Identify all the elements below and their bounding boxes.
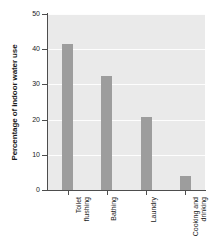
- x-axis-tick-label-line: Toilet: [75, 197, 83, 249]
- x-axis-tick: [68, 191, 69, 195]
- x-axis-tick-label-line: drinking: [200, 197, 208, 249]
- y-axis-tick: [42, 84, 47, 85]
- x-axis-tick: [146, 191, 147, 195]
- y-axis-tick-label: 0: [26, 186, 40, 193]
- bar[interactable]: [101, 76, 112, 190]
- x-axis-tick: [107, 191, 108, 195]
- plot-area: [48, 14, 205, 190]
- gridline: [48, 14, 205, 15]
- bar-chart-figure: Percentage of indoor water use 010203040…: [0, 0, 215, 250]
- y-axis-tick: [42, 14, 47, 15]
- y-axis-title: Percentage of indoor water use: [10, 44, 19, 160]
- y-axis-tick-label: 50: [26, 10, 40, 17]
- bar[interactable]: [62, 44, 73, 190]
- x-axis-tick-label-line: flushing: [82, 197, 90, 249]
- y-axis-tick-label: 10: [26, 151, 40, 158]
- y-axis-tick: [42, 190, 47, 191]
- y-axis-tick: [42, 155, 47, 156]
- y-axis-title-container: Percentage of indoor water use: [6, 14, 22, 190]
- y-axis-tick-label: 20: [26, 116, 40, 123]
- y-axis-tick-label: 30: [26, 80, 40, 87]
- x-axis-tick-label: Cooking anddrinking: [192, 197, 215, 249]
- y-axis-tick: [42, 120, 47, 121]
- bar[interactable]: [141, 117, 152, 190]
- x-axis-tick-label-line: Laundry: [150, 197, 158, 249]
- y-axis-tick-label: 40: [26, 45, 40, 52]
- y-axis-tick: [42, 49, 47, 50]
- x-axis-tick: [185, 191, 186, 195]
- bar[interactable]: [180, 176, 191, 190]
- x-axis-line: [47, 190, 206, 191]
- y-axis-tick-labels: 01020304050: [24, 0, 40, 250]
- x-axis-tick-label-line: Bathing: [110, 197, 118, 249]
